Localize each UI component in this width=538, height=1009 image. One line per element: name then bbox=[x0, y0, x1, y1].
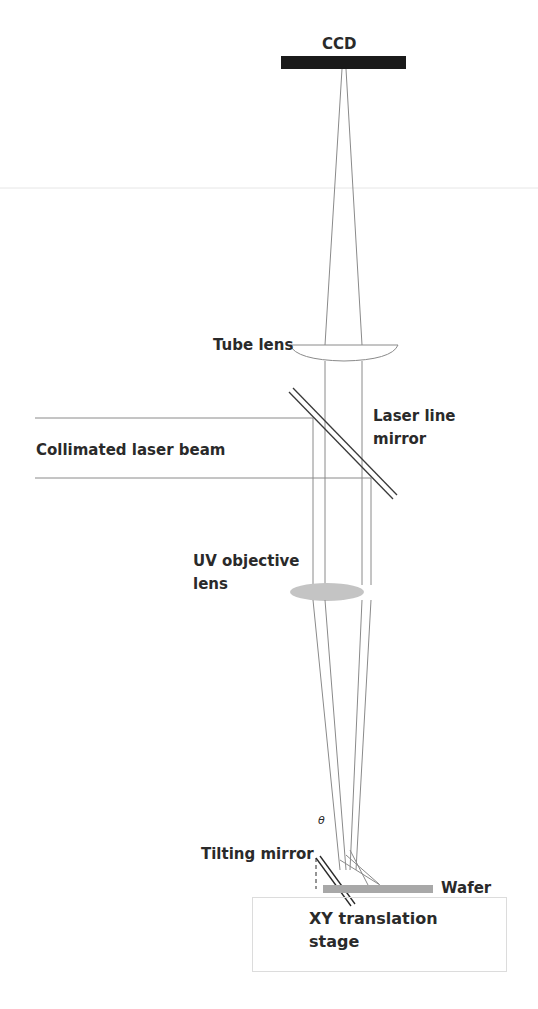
stage-label-2: stage bbox=[309, 932, 359, 951]
collimated-beam-label: Collimated laser beam bbox=[36, 441, 225, 460]
imaging-beam-upper bbox=[325, 69, 362, 345]
imaging-beam-parallel bbox=[325, 361, 362, 585]
uv-objective-lens bbox=[290, 583, 364, 601]
wafer bbox=[323, 885, 433, 893]
theta-label: θ bbox=[318, 811, 325, 830]
ccd-label: CCD bbox=[322, 35, 356, 54]
stage-label-1: XY translation bbox=[309, 909, 438, 928]
laser-line-mirror-label-2: mirror bbox=[373, 430, 426, 449]
tube-lens bbox=[290, 345, 398, 361]
ccd-sensor bbox=[281, 56, 406, 69]
focused-beam bbox=[313, 600, 380, 885]
objective-label-1: UV objective bbox=[193, 552, 300, 571]
tilting-mirror bbox=[316, 856, 355, 906]
wafer-label: Wafer bbox=[441, 879, 491, 898]
objective-label-2: lens bbox=[193, 575, 228, 594]
tilting-mirror-label: Tilting mirror bbox=[201, 845, 314, 864]
laser-line-mirror-label-1: Laser line bbox=[373, 407, 456, 426]
tube-lens-label: Tube lens bbox=[213, 336, 293, 355]
